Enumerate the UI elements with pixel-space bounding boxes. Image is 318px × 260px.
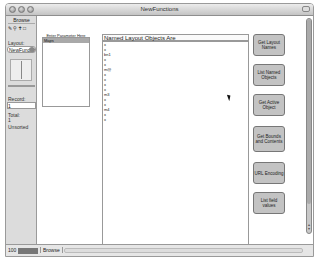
- get-bounds-contents-button[interactable]: Get Bounds and Contents: [253, 126, 285, 152]
- scroll-thumb[interactable]: [307, 19, 311, 204]
- status-area: Browse ✎⚲✝□ Layout: NewFunctio Record: 1…: [6, 16, 37, 246]
- record-slider[interactable]: [8, 85, 35, 87]
- mode-label: Browse: [8, 17, 35, 24]
- horizontal-scrollbar[interactable]: [64, 248, 303, 253]
- chevron-down-icon: [29, 47, 35, 52]
- preview-tool-icon[interactable]: □: [23, 25, 27, 31]
- url-encoding-button[interactable]: URL Encoding: [253, 162, 285, 184]
- param-input-value: Maps: [43, 38, 89, 43]
- results-field[interactable]: x x bn1 x x m@ x x x x m3 x x m4 x x: [102, 41, 249, 248]
- zoom-controls-icon[interactable]: [18, 248, 38, 254]
- toolbar-toggle-button[interactable]: [302, 6, 310, 12]
- record-number-input[interactable]: 1: [7, 102, 36, 109]
- window-title: NewFunctions: [6, 6, 313, 12]
- zoom-level[interactable]: 100: [8, 247, 16, 253]
- record-book-icon[interactable]: [10, 59, 32, 81]
- list-header: Named Layout Objects Are: [102, 34, 249, 41]
- get-layout-names-button[interactable]: Get Layout Names: [253, 34, 285, 56]
- get-active-object-button[interactable]: Get Active Object: [253, 94, 285, 116]
- bottom-bar: 100 Browse: [6, 244, 313, 256]
- sort-status: Unsorted: [8, 124, 28, 130]
- vertical-scrollbar[interactable]: ▴▾: [306, 18, 312, 234]
- layout-body: Enter Parameter Here Maps Named Layout O…: [38, 16, 313, 244]
- tool-icons[interactable]: ✎⚲✝□: [8, 25, 27, 31]
- total-value: 1: [8, 117, 11, 123]
- app-window: NewFunctions Browse ✎⚲✝□ Layout: NewFunc…: [5, 3, 314, 257]
- layout-popup[interactable]: NewFunctio: [7, 46, 36, 53]
- mode-popup[interactable]: Browse: [40, 247, 63, 253]
- list-item: x: [103, 117, 248, 122]
- list-field-values-button[interactable]: List field values: [253, 192, 285, 214]
- scroll-arrows[interactable]: ▴▾: [308, 223, 310, 231]
- list-named-objects-button[interactable]: List Named Objects: [253, 64, 285, 86]
- title-bar: NewFunctions: [6, 4, 313, 16]
- param-input[interactable]: Maps: [42, 37, 90, 107]
